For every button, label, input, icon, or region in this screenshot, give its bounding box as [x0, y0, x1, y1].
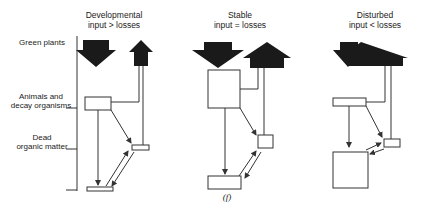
box-animals	[384, 139, 400, 147]
loss-arrow-icon	[243, 42, 291, 68]
box-dead-matter	[208, 176, 241, 189]
box-green-plants	[333, 98, 366, 106]
input-arrow-icon	[192, 42, 244, 68]
input-arrow-icon	[76, 40, 116, 67]
box-green-plants	[208, 70, 240, 108]
loss-arrow-icon	[129, 40, 153, 66]
axis-bracket	[66, 36, 77, 191]
panel-disturbed	[333, 42, 408, 188]
box-dead-matter	[87, 187, 113, 191]
panel-stable	[192, 42, 291, 189]
box-animals	[258, 135, 273, 148]
box-animals	[132, 145, 149, 150]
panel-developmental	[76, 40, 153, 191]
box-dead-matter	[333, 152, 368, 188]
box-green-plants	[85, 97, 111, 110]
ecosystem-diagram	[0, 0, 441, 209]
